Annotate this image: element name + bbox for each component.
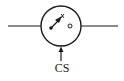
switch-enclosure-circle bbox=[41, 6, 81, 46]
switch-blade-arrowhead bbox=[55, 16, 62, 23]
switch-open-contact bbox=[68, 24, 72, 28]
control-signal-arrowhead bbox=[59, 47, 64, 53]
switch-blade bbox=[51, 21, 58, 28]
control-signal-label: CS bbox=[0, 61, 124, 75]
